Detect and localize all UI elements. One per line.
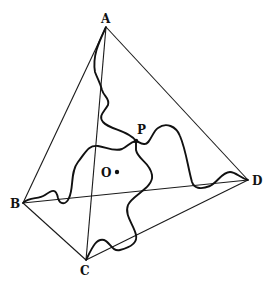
tetrahedron-diagram: A B C D P O [0,0,275,288]
label-a: A [100,12,111,26]
label-d: D [252,174,262,188]
point-o-dot [115,170,119,174]
label-o: O [101,166,111,180]
point-p-dot [134,139,139,144]
edge-bc [23,203,86,260]
curve-c-to-p [86,141,152,260]
edge-ad [106,27,248,180]
label-p: P [137,123,146,137]
label-c: C [80,264,90,278]
label-b: B [10,197,20,211]
curve-a-to-p [94,27,136,141]
edge-cd [86,180,248,260]
